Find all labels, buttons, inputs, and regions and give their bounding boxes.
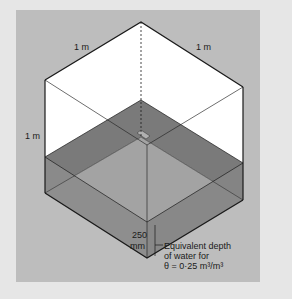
depth-value-label: 250	[132, 230, 147, 240]
annotation-line-3: θ = 0·25 m³/m³	[164, 261, 231, 271]
top-left-edge-label: 1 m	[74, 42, 89, 52]
annotation-line-2: of water for	[164, 251, 231, 261]
annotation-text: Equivalent depth of water for θ = 0·25 m…	[164, 241, 231, 271]
top-right-edge-label: 1 m	[196, 42, 211, 52]
depth-unit-label: mm	[130, 241, 145, 251]
annotation-line-1: Equivalent depth	[164, 241, 231, 251]
left-edge-label: 1 m	[25, 131, 40, 141]
cube-diagram	[0, 0, 292, 299]
